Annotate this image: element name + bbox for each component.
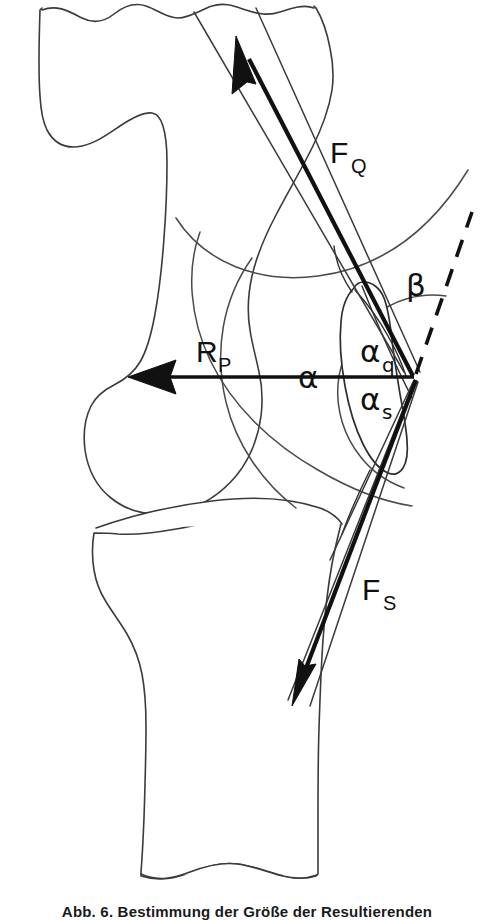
knee-diagram-svg: F Q F S R P α α q α s β — [0, 0, 494, 920]
label-fq-base: F — [330, 136, 348, 169]
label-force-quadriceps: F Q — [330, 136, 367, 177]
label-fq-sub: Q — [351, 155, 367, 177]
figure-container: F Q F S R P α α q α s β — [0, 0, 494, 920]
label-angle-alpha: α — [298, 359, 318, 395]
label-alpha-s-sub: s — [382, 400, 392, 424]
tibia-outline — [93, 509, 342, 879]
label-alpha-q-base: α — [360, 333, 380, 369]
label-rp-sub: P — [218, 354, 231, 376]
label-beta-base: β — [406, 267, 426, 303]
figure-caption: Abb. 6. Bestimmung der Größe der Resulti… — [0, 903, 494, 920]
label-alpha-q-sub: q — [382, 353, 395, 377]
label-fs-base: F — [362, 573, 380, 606]
label-alpha-s-base: α — [360, 381, 380, 417]
label-angle-beta: β — [406, 267, 426, 303]
label-alpha-base: α — [298, 359, 318, 395]
label-rp-base: R — [196, 335, 218, 368]
figure-caption-text: Abb. 6. Bestimmung der Größe der Resulti… — [0, 903, 494, 920]
label-fs-sub: S — [383, 592, 396, 614]
label-force-patellar-tendon: F S — [362, 573, 396, 614]
